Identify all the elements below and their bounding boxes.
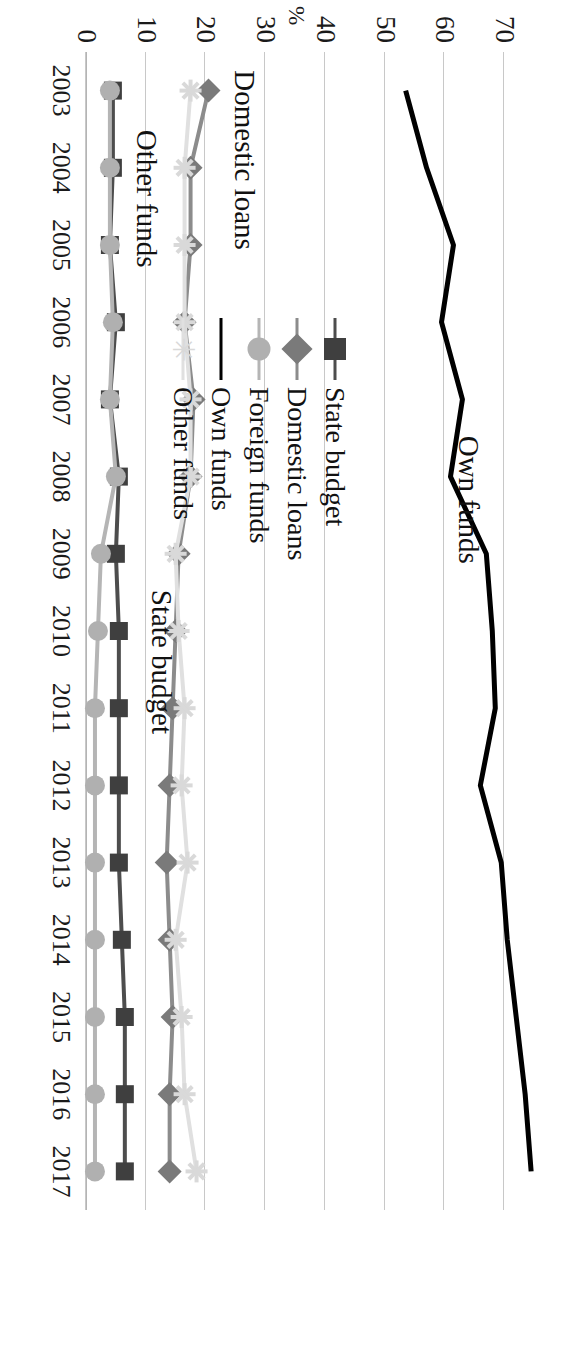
x-tick-label: 2006 [46, 296, 76, 348]
data-point-marker [110, 776, 128, 794]
data-point-marker [177, 852, 199, 874]
x-tick-label: 2007 [46, 373, 76, 425]
data-point-marker [110, 622, 128, 640]
y-axis-title: % [283, 6, 309, 25]
y-tick-label: 10 [130, 16, 161, 43]
y-tick-label: 20 [190, 16, 221, 43]
rotated-page-wrapper: 010203040506070 200320042005200620072008… [0, 0, 586, 1364]
y-tick-label: 30 [250, 16, 281, 43]
legend-label: Other funds [168, 387, 200, 520]
data-point-marker [110, 699, 128, 717]
legend-item[interactable]: State budget [317, 318, 354, 560]
x-tick-label: 2012 [46, 759, 76, 811]
legend-key-none-icon [209, 318, 235, 380]
data-point-marker [85, 930, 105, 950]
y-tick-label: 70 [489, 16, 520, 43]
data-point-marker [100, 81, 120, 101]
data-point-marker [85, 775, 105, 795]
x-tick-label: 2017 [46, 1145, 76, 1197]
data-point-marker [174, 157, 196, 179]
x-tick-label: 2011 [46, 683, 76, 734]
y-tick-label: 50 [369, 16, 400, 43]
legend-item[interactable]: Foreign funds [241, 318, 278, 560]
legend-marker-icon [325, 338, 347, 360]
chart-legend: State budgetDomestic loansForeign fundsO… [165, 318, 354, 560]
data-point-marker [91, 544, 111, 564]
x-tick-label: 2013 [46, 837, 76, 889]
legend-marker-icon [282, 333, 313, 364]
series-line [406, 91, 531, 1172]
data-point-marker [106, 467, 126, 487]
data-point-marker [186, 1160, 208, 1182]
plot-area: 010203040506070 200320042005200620072008… [86, 52, 564, 1210]
legend-item[interactable]: ✳Other funds [165, 318, 202, 560]
series-inline-label: Other funds [129, 130, 162, 268]
data-point-marker [158, 1159, 182, 1183]
data-point-marker [116, 1008, 134, 1026]
x-tick-label: 2009 [46, 528, 76, 580]
data-point-marker [171, 1006, 193, 1028]
data-point-marker [85, 1084, 105, 1104]
x-tick-label: 2004 [46, 142, 76, 194]
legend-item[interactable]: Own funds [203, 318, 240, 560]
data-point-marker [110, 854, 128, 872]
legend-label: Foreign funds [244, 387, 276, 543]
series-inline-label: Own funds [452, 436, 485, 564]
y-tick-label: 0 [71, 30, 102, 44]
series-inline-label: Domestic loans [228, 70, 261, 250]
data-point-marker [174, 234, 196, 256]
legend-key-diamond-icon [285, 318, 311, 380]
data-point-marker [100, 158, 120, 178]
data-point-marker [155, 851, 179, 875]
y-tick-label: 40 [310, 16, 341, 43]
x-tick-label: 2015 [46, 991, 76, 1043]
data-point-marker [116, 1162, 134, 1180]
chart-figure: 010203040506070 200320042005200620072008… [0, 0, 586, 1364]
legend-label: Domestic loans [282, 387, 314, 560]
data-point-marker [180, 80, 202, 102]
legend-key-star-icon: ✳ [171, 318, 197, 380]
data-point-marker [165, 929, 187, 951]
data-point-marker [85, 1007, 105, 1027]
legend-label: State budget [320, 387, 352, 526]
legend-marker-icon [248, 338, 271, 361]
data-point-marker [174, 1083, 196, 1105]
x-tick-label: 2003 [46, 65, 76, 117]
data-point-marker [113, 931, 131, 949]
data-point-marker [88, 621, 108, 641]
legend-line [220, 318, 223, 380]
legend-label: Own funds [206, 387, 238, 511]
x-tick-label: 2010 [46, 605, 76, 657]
x-tick-label: 2016 [46, 1068, 76, 1120]
data-point-marker [85, 1161, 105, 1181]
data-point-marker [100, 389, 120, 409]
data-point-marker [85, 698, 105, 718]
data-point-marker [103, 312, 123, 332]
data-point-marker [100, 235, 120, 255]
legend-key-square-icon [323, 318, 349, 380]
data-point-marker [85, 853, 105, 873]
legend-key-circle-icon [247, 318, 273, 380]
x-tick-label: 2008 [46, 451, 76, 503]
y-tick-label: 60 [429, 16, 460, 43]
series-inline-label: State budget [144, 590, 177, 734]
x-tick-label: 2014 [46, 914, 76, 966]
x-tick-label: 2005 [46, 219, 76, 271]
series-own-funds [406, 91, 531, 1172]
data-point-marker [116, 1085, 134, 1103]
legend-item[interactable]: Domestic loans [279, 318, 316, 560]
